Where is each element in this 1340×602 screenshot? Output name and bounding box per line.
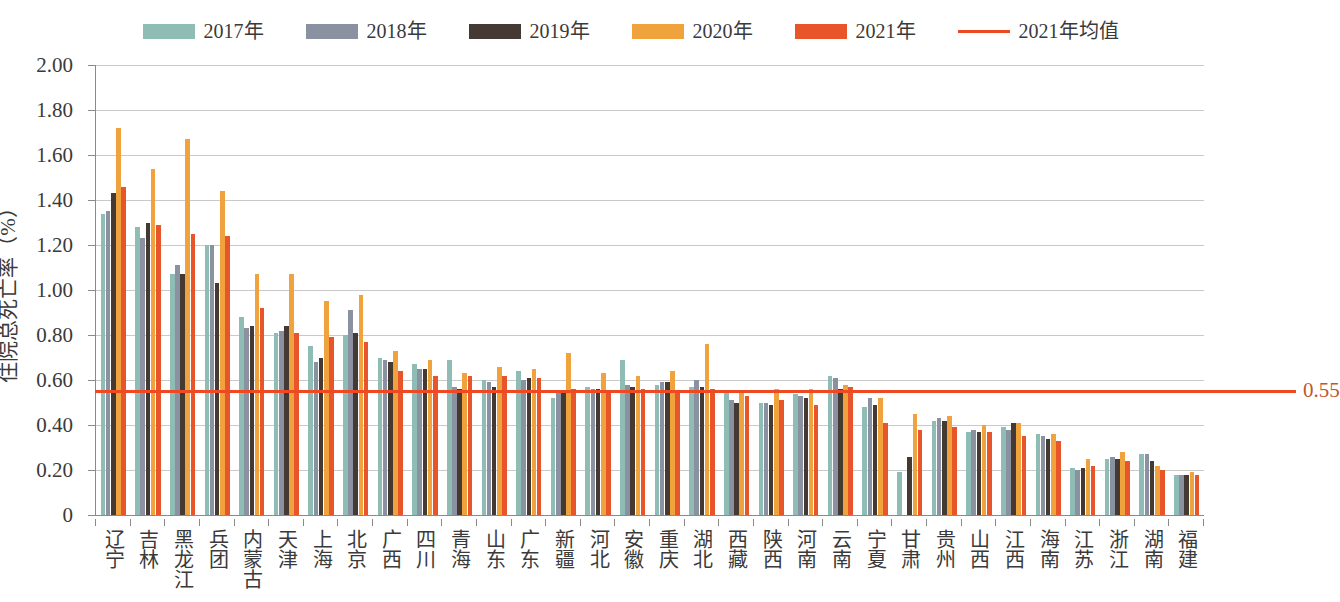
bar bbox=[1110, 457, 1115, 516]
x-axis-tick bbox=[511, 519, 512, 526]
bar bbox=[571, 389, 576, 515]
y-axis-tick bbox=[88, 290, 96, 291]
bar bbox=[497, 367, 502, 516]
bar bbox=[343, 335, 348, 515]
bar bbox=[121, 187, 126, 516]
x-axis-tick-label: 西藏 bbox=[725, 529, 747, 569]
x-axis-tick-label: 河北 bbox=[586, 529, 608, 569]
bar bbox=[641, 389, 646, 515]
bar bbox=[140, 238, 145, 515]
bar-group bbox=[1066, 65, 1101, 515]
bar-group bbox=[927, 65, 962, 515]
x-axis-tick-label: 山东 bbox=[482, 529, 504, 569]
bar bbox=[359, 295, 364, 516]
legend-2020-swatch bbox=[632, 24, 684, 39]
bar bbox=[151, 169, 156, 516]
bar bbox=[745, 396, 750, 515]
bar-group bbox=[858, 65, 893, 515]
bar-group bbox=[1169, 65, 1204, 515]
bar bbox=[220, 191, 225, 515]
bar-group bbox=[373, 65, 408, 515]
bar bbox=[710, 389, 715, 515]
mean-reference-line bbox=[95, 390, 1296, 393]
bar bbox=[952, 427, 957, 515]
x-axis-tick bbox=[961, 519, 962, 526]
x-axis-tick bbox=[753, 519, 754, 526]
bar bbox=[1115, 459, 1120, 515]
bar-group bbox=[996, 65, 1031, 515]
bar bbox=[918, 430, 923, 516]
x-axis-tick-label: 福建 bbox=[1175, 529, 1197, 569]
bar bbox=[551, 398, 556, 515]
legend-2020[interactable]: 2020年 bbox=[632, 21, 753, 41]
legend-2021-label: 2021年 bbox=[856, 21, 916, 41]
bar bbox=[804, 398, 809, 515]
legend-2019[interactable]: 2019年 bbox=[469, 21, 590, 41]
x-axis-tick bbox=[1030, 519, 1031, 526]
bar bbox=[383, 360, 388, 515]
legend-2021[interactable]: 2021年 bbox=[795, 21, 916, 41]
bar bbox=[1051, 434, 1056, 515]
bar bbox=[457, 389, 462, 515]
bar bbox=[388, 362, 393, 515]
bar bbox=[1011, 423, 1016, 515]
bar bbox=[1145, 454, 1150, 515]
x-axis-tick bbox=[1099, 519, 1100, 526]
bar bbox=[591, 389, 596, 515]
y-axis-tick-label: 0.20 bbox=[36, 458, 73, 483]
x-axis-tick bbox=[337, 519, 338, 526]
bar-group bbox=[96, 65, 131, 515]
bar bbox=[739, 391, 744, 515]
x-axis-tick-label: 陕西 bbox=[759, 529, 781, 569]
bar bbox=[759, 403, 764, 516]
x-axis-tick bbox=[372, 519, 373, 526]
bar bbox=[843, 385, 848, 516]
y-axis-tick bbox=[88, 380, 96, 381]
x-axis-tick bbox=[407, 519, 408, 526]
bar bbox=[561, 391, 566, 515]
bar bbox=[942, 421, 947, 516]
bar bbox=[705, 344, 710, 515]
chart-legend: 2017年2018年2019年2020年2021年2021年均值 bbox=[0, 14, 1261, 48]
x-axis-tick bbox=[1065, 519, 1066, 526]
bar bbox=[1056, 441, 1061, 515]
y-axis-tick-label: 0.40 bbox=[36, 413, 73, 438]
legend-2018[interactable]: 2018年 bbox=[306, 21, 427, 41]
legend-2021-mean-label: 2021年均值 bbox=[1019, 21, 1119, 41]
y-axis-tick-label: 2.00 bbox=[36, 53, 73, 78]
bar bbox=[433, 376, 438, 516]
bar bbox=[1160, 470, 1165, 515]
bar bbox=[848, 387, 853, 515]
bar bbox=[675, 391, 680, 515]
x-axis-tick-label: 吉林 bbox=[136, 529, 158, 569]
legend-2021-mean-line bbox=[958, 30, 1010, 33]
bar bbox=[205, 245, 210, 515]
bar bbox=[636, 376, 641, 516]
bar bbox=[289, 274, 294, 515]
bar-group bbox=[1031, 65, 1066, 515]
legend-2017[interactable]: 2017年 bbox=[143, 21, 264, 41]
bar bbox=[482, 380, 487, 515]
bar bbox=[274, 333, 279, 515]
bar bbox=[180, 274, 185, 515]
bar-group bbox=[615, 65, 650, 515]
bar bbox=[809, 389, 814, 515]
bar bbox=[556, 391, 561, 515]
legend-2021-mean[interactable]: 2021年均值 bbox=[958, 21, 1119, 41]
x-axis-tick-label: 辽宁 bbox=[101, 529, 123, 569]
bar bbox=[348, 310, 353, 515]
x-axis-tick bbox=[268, 519, 269, 526]
bar bbox=[314, 362, 319, 515]
bar bbox=[585, 387, 590, 515]
bar bbox=[250, 326, 255, 515]
bar bbox=[769, 405, 774, 515]
bar bbox=[537, 378, 542, 515]
bar-group bbox=[685, 65, 720, 515]
bar bbox=[982, 425, 987, 515]
bar bbox=[1016, 423, 1021, 515]
bar bbox=[1139, 454, 1144, 515]
bar bbox=[700, 387, 705, 515]
bar bbox=[447, 360, 452, 515]
x-axis-tick-label: 安徽 bbox=[621, 529, 643, 569]
bar bbox=[294, 333, 299, 515]
